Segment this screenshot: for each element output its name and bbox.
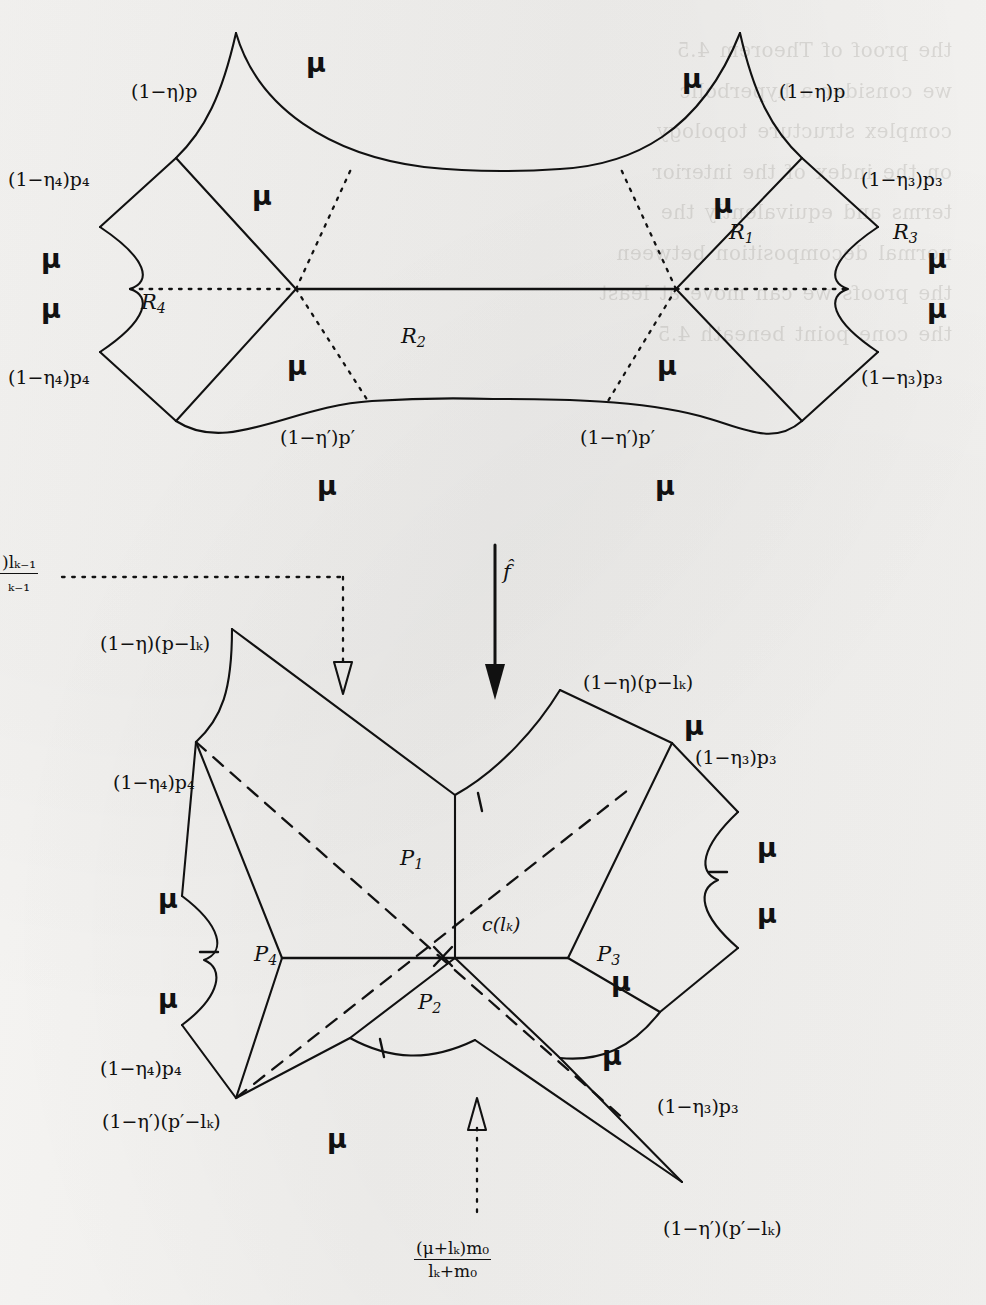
region-label-P4: P4: [254, 944, 277, 967]
mu-label-top-8: μ: [927, 295, 947, 322]
mu-label-bottom-2: μ: [757, 834, 777, 861]
bottom-callout-fraction: (μ+lₖ)m₀ lₖ+m₀: [414, 1238, 491, 1281]
left-callout-fraction: )lₖ₋₁ ₖ₋₁: [0, 552, 38, 595]
edge-label-lower-left-p4: (1−η₄)p₄: [8, 368, 90, 387]
mu-label-bottom-1: μ: [684, 712, 704, 739]
left-callout-arrowhead: [334, 662, 352, 694]
mu-label-bottom-4: μ: [158, 885, 178, 912]
mu-label-top-11: μ: [317, 472, 337, 499]
region-label-R2: R2: [401, 326, 426, 349]
mu-label-top-7: μ: [927, 245, 947, 272]
region-label-P2: P2: [418, 992, 441, 1015]
mu-label-top-12: μ: [655, 472, 675, 499]
mu-label-bottom-8: μ: [611, 968, 631, 995]
mu-label-top-4: μ: [713, 190, 733, 217]
edge-label-bottom-left-pp: (1−η′)p′: [280, 428, 355, 447]
edge-label-bottom-right-pplk: (1−η′)(p′−lₖ): [663, 1219, 782, 1238]
region-label-R1: R1: [729, 222, 754, 245]
edge-label-upper-left-plk: (1−η)(p−lₖ): [100, 634, 210, 653]
figure-page: the proof of Theorem 4.5 we consider a h…: [0, 0, 986, 1305]
edge-label-bottom-right-pp: (1−η′)p′: [580, 428, 655, 447]
edge-label-top-right-p: (1−η)p: [779, 82, 845, 101]
edge-label-upper-left-p4: (1−η₄)p₄: [8, 170, 90, 189]
mu-label-bottom-7: μ: [602, 1042, 622, 1069]
boundary-tick-marks: [200, 793, 727, 1057]
map-label-f-hat: f̂: [503, 562, 511, 583]
bottom-figure-outline: [182, 629, 738, 1182]
bottom-figure-dashed: [196, 742, 628, 1120]
mu-label-top-2: μ: [682, 65, 702, 92]
edge-label-left-p4-upper: (1−η₄)p₄: [113, 773, 195, 792]
mu-label-bottom-5: μ: [158, 985, 178, 1012]
left-callout-arrow: [62, 577, 343, 668]
top-figure-outline: [100, 33, 878, 434]
edge-label-right-p3-upper: (1−η₃)p₃: [695, 748, 777, 767]
edge-label-top-left-p: (1−η)p: [131, 82, 197, 101]
mu-label-bottom-3: μ: [757, 900, 777, 927]
mu-label-top-3: μ: [252, 182, 272, 209]
mu-label-top-5: μ: [41, 245, 61, 272]
edge-label-upper-right-plk: (1−η)(p−lₖ): [583, 673, 693, 692]
region-label-R3: R3: [893, 222, 918, 245]
region-label-P3: P3: [597, 944, 620, 967]
bottom-callout-arrowhead: [468, 1098, 486, 1130]
mu-label-top-9: μ: [287, 352, 307, 379]
edge-label-upper-right-p3: (1−η₃)p₃: [861, 170, 943, 189]
center-cross-mark: [434, 947, 452, 966]
mu-label-top-6: μ: [41, 295, 61, 322]
region-label-R4: R4: [141, 292, 166, 315]
mu-label-top-1: μ: [306, 49, 326, 76]
edge-label-bottom-left-pplk: (1−η′)(p′−lₖ): [102, 1112, 221, 1131]
edge-label-right-p3-lower: (1−η₃)p₃: [657, 1097, 739, 1116]
mu-label-bottom-6: μ: [327, 1125, 347, 1152]
mu-label-top-10: μ: [657, 352, 677, 379]
edge-label-left-p4-lower: (1−η₄)p₄: [100, 1059, 182, 1078]
map-arrow: [485, 545, 505, 700]
geodesic-label-c-lk: c(lₖ): [482, 915, 520, 934]
top-figure-dotted: [130, 167, 848, 401]
region-label-P1: P1: [400, 848, 423, 871]
edge-label-lower-right-p3: (1−η₃)p₃: [861, 368, 943, 387]
